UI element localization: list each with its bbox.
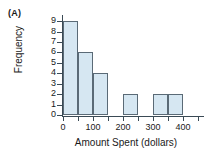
histogram-bar (63, 21, 78, 115)
histogram-bar (123, 94, 138, 115)
x-axis-tick-mark (123, 117, 124, 121)
y-axis-tick-label: 7 (42, 37, 56, 46)
histogram-bar (153, 94, 168, 115)
y-axis-tick-mark (57, 52, 62, 53)
y-axis-tick-mark (57, 32, 62, 33)
y-axis-tick-label: 6 (42, 47, 56, 56)
x-axis-tick-label: 100 (81, 122, 105, 132)
x-axis-tick-mark (108, 117, 109, 121)
y-axis-tick-mark (57, 84, 62, 85)
x-axis-tick-label: 0 (51, 122, 75, 132)
y-axis-tick-label: 1 (42, 100, 56, 109)
y-axis-tick-label: 2 (42, 89, 56, 98)
x-axis-tick-mark (138, 117, 139, 121)
histogram-chart: 0123456789 0100200300400 Frequency Amoun… (0, 0, 208, 163)
x-axis-tick-label: 300 (141, 122, 165, 132)
y-axis-tick-mark (57, 42, 62, 43)
y-axis-title: Frequency (13, 15, 24, 85)
x-axis-tick-mark (153, 117, 154, 121)
histogram-bar (78, 52, 93, 115)
y-axis-tick-label: 9 (42, 16, 56, 25)
histogram-bar (93, 73, 108, 115)
y-axis-tick-mark (57, 105, 62, 106)
y-axis-tick-label: 3 (42, 79, 56, 88)
x-axis-title: Amount Spent (dollars) (44, 137, 208, 148)
y-axis-tick-mark (57, 63, 62, 64)
x-axis-tick-mark (183, 117, 184, 121)
y-axis-tick-mark (57, 21, 62, 22)
y-axis-tick-mark (57, 115, 62, 116)
plot-bars (63, 17, 198, 115)
y-axis-tick-mark (57, 73, 62, 74)
x-axis-tick-mark (168, 117, 169, 121)
x-axis-tick-label: 200 (111, 122, 135, 132)
y-axis-tick-mark (57, 94, 62, 95)
y-axis-tick-label: 0 (42, 110, 56, 119)
x-axis-tick-mark (198, 117, 199, 121)
x-axis-tick-mark (93, 117, 94, 121)
x-axis-tick-label: 400 (171, 122, 195, 132)
x-axis-tick-mark (63, 117, 64, 121)
y-axis-tick-label: 8 (42, 27, 56, 36)
y-axis-tick-label: 5 (42, 58, 56, 67)
histogram-bar (168, 94, 183, 115)
y-axis-tick-label: 4 (42, 68, 56, 77)
x-axis-tick-mark (78, 117, 79, 121)
